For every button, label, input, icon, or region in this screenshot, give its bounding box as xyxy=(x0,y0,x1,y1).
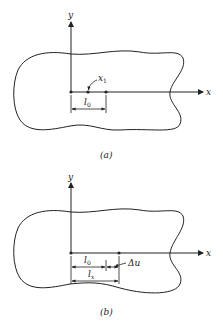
diagram-canvas: y x x1 l0 (a) y x l0 lx Δu (b) xyxy=(0,0,223,328)
delta-u-label: Δu xyxy=(127,258,140,268)
origin-point xyxy=(69,90,72,93)
figure-a: y x x1 l0 (a) xyxy=(14,10,211,160)
l0-label: l0 xyxy=(84,255,91,266)
caption-a: (a) xyxy=(100,150,113,160)
l0-label: l0 xyxy=(84,97,91,108)
point-x1 xyxy=(86,90,89,93)
x1-label: x1 xyxy=(98,73,107,84)
x-axis-label: x xyxy=(206,248,211,258)
origin-point xyxy=(69,251,72,254)
lx-label: lx xyxy=(88,269,95,280)
body-outline xyxy=(14,51,184,130)
point-end xyxy=(104,90,107,93)
delta-u-leader-arrow xyxy=(115,263,126,267)
body-outline xyxy=(14,209,184,293)
x1-leader-arrow xyxy=(89,80,98,90)
point-end xyxy=(117,251,120,254)
caption-b: (b) xyxy=(100,307,113,317)
y-axis-label: y xyxy=(67,172,74,182)
x-axis-label: x xyxy=(206,87,211,97)
y-axis-label: y xyxy=(67,10,74,20)
figure-b: y x l0 lx Δu (b) xyxy=(14,172,211,317)
